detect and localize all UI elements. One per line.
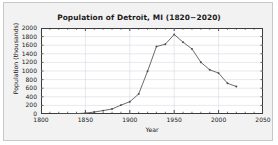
y-axis-tick-labels: 0200400600800100012001400160018002000 bbox=[4, 28, 37, 114]
data-point-markers bbox=[58, 34, 238, 114]
plot-wrapper bbox=[41, 28, 263, 114]
y-tick-label: 1600 bbox=[22, 42, 37, 48]
data-point bbox=[93, 111, 95, 113]
y-tick-label: 200 bbox=[26, 102, 37, 108]
x-tick-label: 2000 bbox=[204, 116, 234, 124]
data-point bbox=[138, 93, 140, 95]
data-point bbox=[173, 34, 175, 36]
y-tick-label: 2000 bbox=[22, 25, 37, 31]
grid-lines bbox=[41, 28, 263, 114]
x-axis-title: Year bbox=[41, 126, 263, 133]
y-tick-label: 600 bbox=[26, 85, 37, 91]
data-point bbox=[111, 108, 113, 110]
data-point bbox=[129, 101, 131, 103]
y-tick-label: 800 bbox=[26, 77, 37, 83]
y-tick-label: 1000 bbox=[22, 68, 37, 74]
data-point bbox=[182, 41, 184, 43]
y-tick-label: 1400 bbox=[22, 51, 37, 57]
data-point bbox=[227, 82, 229, 84]
y-tick-label: 1800 bbox=[22, 34, 37, 40]
data-point bbox=[164, 43, 166, 45]
data-point bbox=[218, 72, 220, 74]
chart-title: Population of Detroit, MI (1820−2020) bbox=[4, 13, 274, 22]
data-point bbox=[67, 113, 69, 114]
y-axis-title: Population (thousands) bbox=[12, 14, 19, 104]
data-point bbox=[76, 113, 78, 114]
chart-figure: Population of Detroit, MI (1820−2020) 02… bbox=[3, 2, 273, 141]
chart-line-svg bbox=[41, 28, 263, 114]
data-point bbox=[58, 113, 60, 114]
data-point bbox=[84, 112, 86, 114]
data-point bbox=[147, 70, 149, 72]
x-tick-label: 1950 bbox=[159, 116, 189, 124]
data-point bbox=[200, 61, 202, 63]
data-point bbox=[120, 104, 122, 106]
x-tick-label: 1800 bbox=[26, 116, 56, 124]
y-tick-label: 1200 bbox=[22, 59, 37, 65]
y-tick-label: 400 bbox=[26, 94, 37, 100]
x-tick-label: 2050 bbox=[248, 116, 278, 124]
data-point bbox=[102, 110, 104, 112]
data-point bbox=[191, 48, 193, 50]
data-point bbox=[209, 69, 211, 71]
x-tick-label: 1850 bbox=[70, 116, 100, 124]
data-point bbox=[155, 46, 157, 48]
data-point bbox=[235, 86, 237, 88]
x-tick-label: 1900 bbox=[115, 116, 145, 124]
